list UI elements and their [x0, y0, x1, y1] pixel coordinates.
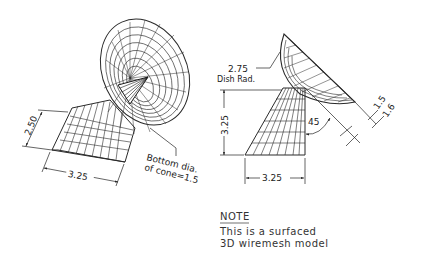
angle-label: 45	[308, 117, 319, 127]
dim-width-right-label: 3.25	[262, 173, 282, 183]
note-block: NOTE This is a surfaced 3D wiremesh mode…	[219, 211, 329, 249]
left-isometric-view: 2.50 3.25 Bottom dia. of cone=1.5	[22, 4, 206, 186]
cone-callout-leader	[150, 128, 176, 156]
dim-height-right-label: 3.25	[220, 115, 230, 135]
note-line-1: This is a surfaced	[219, 226, 316, 237]
dim-height-left-label: 2.50	[23, 114, 40, 137]
dish-radius-value: 2.75	[228, 64, 248, 74]
dish-radius-label: Dish Rad.	[217, 75, 255, 84]
dish-mesh-left	[84, 4, 207, 139]
dim-width-left-label: 3.25	[67, 169, 89, 183]
pedestal-mesh-right	[245, 88, 305, 155]
right-side-view: 2.75 Dish Rad. 3.25 3.25 45	[217, 34, 397, 184]
dish-mesh-right	[280, 34, 355, 104]
angle-dimension	[305, 88, 360, 143]
pedestal-mesh-left	[52, 100, 135, 162]
note-line-2: 3D wiremesh model	[220, 238, 329, 249]
note-title: NOTE	[220, 211, 250, 222]
dish-radius-leader	[256, 52, 280, 68]
cad-drawing: 2.50 3.25 Bottom dia. of cone=1.5	[0, 0, 421, 259]
